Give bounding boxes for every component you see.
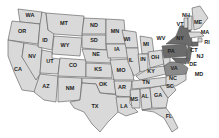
state-label-wa: WA: [26, 12, 35, 18]
state-label-mi: MI: [143, 41, 150, 47]
state-vt[interactable]: [184, 18, 188, 28]
state-label-fl: FL: [166, 113, 173, 119]
state-label-nv: NV: [28, 53, 36, 59]
state-ct[interactable]: [192, 42, 198, 46]
us-map-svg: WAORCANVIDMTWYUTAZCONMNDSDNEKSOKTXMNIAMO…: [0, 0, 219, 138]
state-fl[interactable]: [142, 108, 178, 132]
state-label-ga: GA: [154, 92, 162, 98]
state-label-ok: OK: [99, 81, 107, 87]
state-label-sc: SC: [166, 83, 174, 89]
state-label-oh: OH: [151, 54, 159, 60]
state-label-nc: NC: [169, 75, 177, 81]
state-label-nd: ND: [90, 22, 98, 28]
state-label-vt: VT: [176, 21, 184, 27]
state-label-ms: MS: [130, 96, 139, 102]
state-label-az: AZ: [42, 83, 50, 89]
state-label-nj: NJ: [196, 53, 203, 59]
state-label-il: IL: [129, 57, 135, 63]
state-label-pa: PA: [167, 48, 174, 54]
state-label-wv: WV: [157, 35, 166, 41]
state-label-ma: MA: [201, 29, 210, 35]
state-label-nm: NM: [66, 85, 75, 91]
state-label-sd: SD: [90, 37, 98, 43]
state-label-mt: MT: [60, 20, 69, 26]
state-label-wi: WI: [124, 36, 131, 42]
state-label-in: IN: [140, 56, 146, 62]
state-label-mn: MN: [111, 28, 120, 34]
state-nh[interactable]: [188, 16, 192, 30]
state-label-va: VA: [170, 65, 177, 71]
state-label-or: OR: [18, 28, 26, 34]
state-label-me: ME: [194, 19, 203, 25]
state-label-la: LA: [120, 103, 127, 109]
state-label-al: AL: [141, 93, 149, 99]
state-label-ny: NY: [176, 35, 184, 41]
state-label-md: MD: [195, 71, 204, 77]
state-label-ca: CA: [14, 66, 22, 72]
state-label-tx: TX: [91, 103, 98, 109]
state-label-co: CO: [69, 62, 78, 68]
state-label-mo: MO: [117, 67, 127, 73]
state-label-nh: NH: [182, 12, 190, 18]
state-label-id: ID: [42, 37, 48, 43]
state-label-de: DE: [189, 61, 197, 67]
state-label-ne: NE: [92, 51, 100, 57]
state-label-tn: TN: [142, 79, 149, 85]
state-ri[interactable]: [198, 38, 202, 42]
state-label-ut: UT: [46, 58, 54, 64]
state-label-ia: IA: [114, 46, 120, 52]
us-map: WAORCANVIDMTWYUTAZCONMNDSDNEKSOKTXMNIAMO…: [0, 0, 219, 138]
state-label-wy: WY: [61, 42, 70, 48]
state-label-ks: KS: [94, 66, 102, 72]
state-pa[interactable]: [162, 44, 188, 58]
state-label-ri: RI: [204, 39, 210, 45]
state-label-ar: AR: [118, 84, 126, 90]
state-me[interactable]: [192, 6, 208, 30]
state-label-ky: KY: [147, 68, 155, 74]
